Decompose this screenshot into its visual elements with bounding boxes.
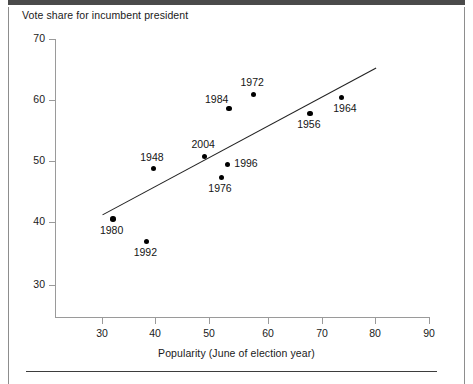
x-tick-mark	[429, 318, 430, 324]
data-point-label: 1992	[134, 246, 157, 258]
data-point-label: 2004	[191, 138, 214, 150]
data-point	[151, 166, 156, 171]
x-tick-label: 40	[140, 327, 170, 339]
y-axis-line	[55, 39, 56, 318]
data-point-label: 1948	[140, 151, 163, 163]
y-tick-label: 70	[21, 32, 45, 44]
x-axis-label: Popularity (June of election year)	[0, 347, 473, 359]
data-point-label: 1980	[100, 224, 123, 236]
data-point	[110, 216, 115, 221]
y-tick-label: 30	[21, 278, 45, 290]
y-tick-label: 60	[21, 93, 45, 105]
y-tick-mark	[49, 222, 55, 223]
page-border-left	[8, 7, 9, 384]
data-point-label: 1972	[241, 76, 264, 88]
data-point-label: 1996	[234, 157, 257, 169]
x-tick-mark	[322, 318, 323, 324]
data-point-label: 1976	[208, 182, 231, 194]
page-bottom-rule	[26, 371, 437, 372]
x-tick-mark	[102, 318, 103, 324]
x-axis-line	[55, 317, 430, 318]
data-point-label: 1984	[205, 93, 228, 105]
data-point	[307, 111, 312, 116]
data-point	[226, 106, 231, 111]
x-tick-label: 90	[414, 327, 444, 339]
x-tick-mark	[375, 318, 376, 324]
y-tick-mark	[49, 161, 55, 162]
x-tick-label: 60	[253, 327, 283, 339]
x-tick-mark	[268, 318, 269, 324]
y-tick-mark	[49, 285, 55, 286]
data-point	[219, 175, 224, 180]
y-tick-label: 40	[21, 215, 45, 227]
x-tick-label: 50	[194, 327, 224, 339]
trend-line-layer	[0, 0, 473, 384]
y-tick-mark	[49, 100, 55, 101]
data-point-label: 1964	[333, 102, 356, 114]
data-point	[202, 154, 207, 159]
x-tick-label: 80	[360, 327, 390, 339]
data-point-label: 1956	[297, 118, 320, 130]
x-tick-mark	[155, 318, 156, 324]
x-tick-label: 30	[87, 327, 117, 339]
scatter-plot-figure: Vote share for incumbent president 70605…	[0, 0, 473, 384]
x-tick-label: 70	[307, 327, 337, 339]
page-top-rule	[8, 0, 465, 5]
data-point	[225, 162, 230, 167]
trend-line	[103, 68, 377, 215]
page-border-right	[464, 7, 465, 384]
y-tick-mark	[49, 39, 55, 40]
data-point	[251, 92, 256, 97]
x-tick-mark	[209, 318, 210, 324]
data-point	[144, 239, 149, 244]
data-point	[339, 95, 344, 100]
chart-title: Vote share for incumbent president	[22, 9, 188, 22]
y-tick-label: 50	[21, 154, 45, 166]
